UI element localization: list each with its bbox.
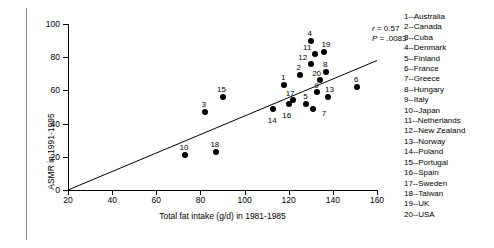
data-point-label-11: 11 [297,44,317,52]
statistics-annotation: r = 0.57 P = .0083 [372,24,407,44]
legend-item-17: 17--Sweden [404,179,494,189]
legend-item-16: 16--Spain [404,168,494,178]
data-point-label-13: 13 [319,86,339,94]
legend-item-2: 2--Canada [404,22,494,32]
country-legend: 1--Australia2--Canada3--Cuba4--Denmark5-… [404,12,494,220]
data-point-label-3: 3 [194,101,214,109]
data-point-label-19: 19 [316,41,336,49]
legend-item-19: 19--UK [404,199,494,209]
data-point-14 [270,106,276,112]
data-point-label-12: 12 [293,54,313,62]
legend-item-11: 11--Netherlands [404,116,494,126]
data-point-label-4: 4 [300,30,320,38]
data-point-15 [220,94,226,100]
data-point-label-7: 7 [314,110,334,118]
data-point-label-17: 17 [280,90,300,98]
legend-item-20: 20--USA [404,210,494,220]
data-point-3 [202,109,208,115]
legend-item-10: 10--Japan [404,106,494,116]
legend-item-7: 7--Greece [404,74,494,84]
legend-item-4: 4--Denmark [404,43,494,53]
legend-item-3: 3--Cuba [404,33,494,43]
legend-item-5: 5--Finland [404,54,494,64]
legend-item-12: 12--New Zealand [404,126,494,136]
data-point-label-16: 16 [277,112,297,120]
legend-item-8: 8--Hungary [404,85,494,95]
legend-item-13: 13--Norway [404,137,494,147]
legend-item-6: 6--France [404,64,494,74]
legend-item-15: 15--Portugal [404,158,494,168]
legend-item-1: 1--Australia [404,12,494,22]
data-point-label-15: 15 [212,86,232,94]
correlation-annotation: r = 0.57 [372,24,407,34]
legend-item-14: 14--Poland [404,147,494,157]
plot-area: 020406080100 20406080100120140160 ASMR i… [0,0,400,248]
legend-item-9: 9--Italy [404,95,494,105]
data-point-label-8: 8 [315,61,335,69]
data-point-18 [213,149,219,155]
data-point-label-20: 20 [307,70,327,78]
scatter-plot-figure: 020406080100 20406080100120140160 ASMR i… [0,0,494,248]
data-point-label-18: 18 [205,141,225,149]
data-point-label-10: 10 [174,144,194,152]
regression-line [0,0,400,248]
legend-item-18: 18--Taiwan [404,189,494,199]
data-point-label-1: 1 [273,74,293,82]
pvalue-annotation: P = .0083 [372,34,407,44]
data-point-label-6: 6 [346,76,366,84]
